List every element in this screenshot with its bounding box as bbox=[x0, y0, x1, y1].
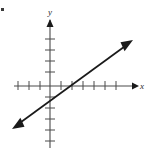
x-axis-label: x bbox=[139, 81, 144, 91]
graph-canvas: x y bbox=[0, 0, 152, 152]
line-segment bbox=[17, 44, 128, 125]
x-axis-arrowhead-icon bbox=[132, 82, 139, 89]
y-axis-arrowhead-icon bbox=[47, 19, 54, 27]
horizontal-axis: x bbox=[14, 81, 144, 91]
coordinate-graph-figure: x y bbox=[0, 0, 152, 152]
line-arrowhead-lower-left-icon bbox=[12, 118, 25, 129]
scan-artifact-speck bbox=[1, 8, 4, 11]
vertical-axis: y bbox=[45, 7, 55, 148]
plotted-line-series bbox=[12, 40, 133, 129]
line-arrowhead-upper-right-icon bbox=[121, 40, 134, 51]
y-axis-label: y bbox=[47, 7, 52, 17]
